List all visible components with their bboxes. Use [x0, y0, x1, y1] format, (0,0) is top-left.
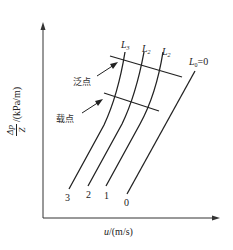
diagram-canvas: [0, 0, 233, 250]
flooding-arrow: [97, 65, 114, 76]
bottom-label-0: 0: [124, 198, 129, 208]
label-L3: L3: [121, 40, 130, 51]
bottom-label-1: 1: [104, 191, 109, 201]
curve-L2: [88, 52, 144, 186]
label-L0: L0=0: [189, 57, 208, 68]
bottom-label-3: 3: [65, 193, 70, 203]
x-axis-label: u/(m/s): [104, 227, 133, 237]
curve-L0: [127, 71, 195, 194]
flooding-arrowhead-icon: [110, 62, 118, 69]
label-L2a: L2: [142, 44, 151, 55]
y-axis-arrow-icon: [41, 22, 46, 30]
loading-arrowhead-icon: [95, 99, 103, 106]
y-axis-label: ΔpZ /(kPa/m): [6, 87, 27, 136]
loading-point-label: 载点: [56, 115, 74, 124]
label-L2b: L2: [162, 47, 171, 58]
loading-arrow: [82, 102, 99, 113]
x-axis-arrow-icon: [212, 216, 220, 221]
bottom-label-2: 2: [86, 190, 91, 200]
flooding-point-label: 泛点: [73, 78, 91, 87]
curve-L1: [106, 52, 163, 186]
